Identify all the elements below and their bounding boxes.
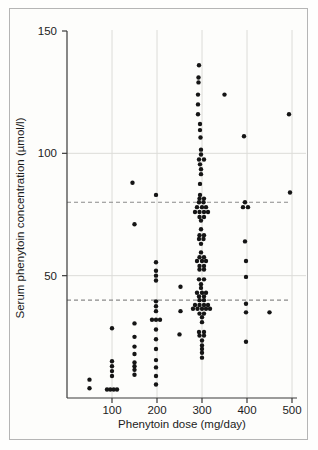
data-point [132,335,136,339]
data-point [197,63,201,67]
data-point [154,309,158,313]
data-point [204,205,208,209]
data-point [110,359,114,363]
data-point [200,320,204,324]
data-point [154,337,158,341]
data-point [132,344,136,348]
data-point [244,259,248,263]
data-point [196,102,200,106]
data-point [200,351,204,355]
data-point [154,193,158,197]
data-point [198,122,202,126]
data-point [199,286,203,290]
data-point [201,200,205,204]
data-point [197,157,201,161]
data-point [199,147,203,151]
data-point [199,172,203,176]
data-point [195,205,199,209]
data-point [197,200,201,204]
data-point [197,267,201,271]
data-point [154,327,158,331]
data-point [197,298,201,302]
data-point [202,157,206,161]
data-point [200,306,204,310]
data-point [206,210,210,214]
data-point [208,306,212,310]
y-axis-title: Serum phenytoin concentration (µmol/l) [14,68,28,368]
data-point [196,92,200,96]
data-point [197,255,201,259]
data-point [115,387,119,391]
data-point [154,374,158,378]
x-tick-label: 100 [92,404,132,416]
data-point [154,347,158,351]
data-point [132,368,136,372]
data-point [154,365,158,369]
data-point [178,309,182,313]
data-point [199,242,203,246]
figure: Phenytoin dose (mg/day) Serum phenytoin … [0,0,318,450]
data-point [200,355,204,359]
data-point [110,374,114,378]
data-point [132,321,136,325]
data-point [132,352,136,356]
data-point [244,310,248,314]
data-point [87,386,91,390]
data-point [199,227,203,231]
data-point [243,239,247,243]
data-point [288,190,292,194]
data-point [193,210,197,214]
data-point [202,215,206,219]
data-point [199,218,203,222]
data-point [202,333,206,337]
y-tick-label: 50 [29,270,57,282]
data-point [158,318,162,322]
data-point [154,269,158,273]
data-point [154,304,158,308]
data-point [202,210,206,214]
y-tick-label: 100 [29,147,57,159]
data-point [246,205,250,209]
data-point [150,318,154,322]
data-point [110,326,114,330]
data-point [197,237,201,241]
data-point [202,267,206,271]
data-point [200,338,204,342]
data-point [198,128,202,132]
data-point [196,112,200,116]
data-point [222,92,226,96]
data-point [198,135,202,139]
data-point [267,310,271,314]
data-point [198,182,202,186]
x-axis-title: Phenytoin dose (mg/day) [67,418,297,430]
data-point [132,222,136,226]
data-point [204,259,208,263]
x-tick-label: 400 [227,404,267,416]
data-point [154,382,158,386]
data-point [196,75,200,79]
data-point [177,332,181,336]
data-point [199,250,203,254]
data-point [200,315,204,319]
data-point [130,180,134,184]
data-point [154,299,158,303]
data-point [110,364,114,368]
data-point [195,259,199,263]
data-point [87,377,91,381]
x-tick-label: 300 [182,404,222,416]
data-point [154,260,158,264]
data-point [197,210,201,214]
data-point [287,112,291,116]
data-point [197,311,201,315]
data-point [241,205,245,209]
data-point [178,284,182,288]
data-point [191,306,195,310]
data-point [242,134,246,138]
data-point [244,302,248,306]
data-point [110,369,114,373]
data-point [244,275,248,279]
x-tick-label: 500 [272,404,312,416]
data-point [243,200,247,204]
y-tick-label: 150 [29,25,57,37]
data-point [202,298,206,302]
